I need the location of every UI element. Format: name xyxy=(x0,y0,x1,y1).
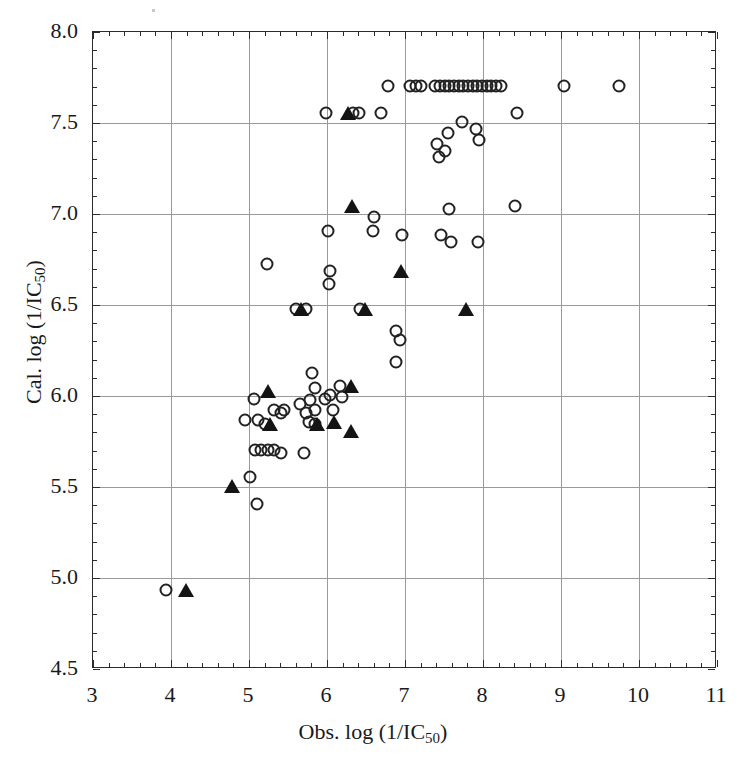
x-axis-tick-minor xyxy=(280,663,281,667)
x-axis-tick-minor xyxy=(670,663,671,667)
data-point-triangle xyxy=(343,424,359,438)
y-axis-tick-minor-right xyxy=(711,469,715,470)
x-axis-tick-major-top xyxy=(561,32,562,39)
x-axis-tick-minor-top xyxy=(202,32,203,36)
y-axis-tick-minor xyxy=(93,178,97,179)
data-point-triangle xyxy=(393,264,409,278)
y-axis-tick-minor-right xyxy=(711,542,715,543)
data-point-triangle xyxy=(309,417,325,431)
data-point-circle xyxy=(277,403,290,416)
x-axis-tick-minor-top xyxy=(467,32,468,36)
gridline-vertical xyxy=(249,32,250,667)
x-axis-title-suffix: ) xyxy=(440,719,447,744)
gridline-horizontal xyxy=(93,214,715,215)
data-point-circle xyxy=(443,203,456,216)
x-axis-tick-minor xyxy=(655,663,656,667)
y-axis-tick-label: 7.5 xyxy=(14,111,78,133)
y-axis-tick-minor xyxy=(93,341,97,342)
x-axis-tick-minor xyxy=(421,663,422,667)
gridline-horizontal xyxy=(93,123,715,124)
y-axis-tick-minor-right xyxy=(711,287,715,288)
y-axis-tick-minor xyxy=(93,105,97,106)
y-axis-tick-major xyxy=(93,487,100,488)
x-axis-tick-label: 4 xyxy=(165,684,176,706)
x-axis-tick-label: 9 xyxy=(555,684,566,706)
x-axis-tick-major-top xyxy=(405,32,406,39)
data-point-circle xyxy=(243,470,256,483)
x-axis-tick-minor-top xyxy=(109,32,110,36)
x-axis-tick-minor xyxy=(467,663,468,667)
data-point-triangle xyxy=(178,583,194,597)
x-axis-tick-major-top xyxy=(249,32,250,39)
x-axis-tick-minor xyxy=(436,663,437,667)
gridline-horizontal xyxy=(93,396,715,397)
x-axis-tick-label: 5 xyxy=(243,684,254,706)
data-point-triangle xyxy=(224,479,240,493)
data-point-circle xyxy=(305,367,318,380)
y-axis-tick-minor xyxy=(93,523,97,524)
data-point-triangle xyxy=(458,302,474,316)
y-axis-tick-minor-right xyxy=(711,633,715,634)
data-point-circle xyxy=(396,228,409,241)
page-speck xyxy=(152,9,155,12)
y-axis-tick-minor xyxy=(93,614,97,615)
data-point-circle xyxy=(323,265,336,278)
y-axis-tick-minor xyxy=(93,633,97,634)
data-point-circle xyxy=(238,414,251,427)
x-axis-tick-label: 3 xyxy=(87,684,98,706)
x-axis-tick-minor-top xyxy=(343,32,344,36)
x-axis-title: Obs. log (1/IC50) xyxy=(0,719,746,747)
data-point-circle xyxy=(323,277,336,290)
x-axis-tick-minor-top xyxy=(452,32,453,36)
y-axis-tick-minor xyxy=(93,68,97,69)
data-point-circle xyxy=(438,145,451,158)
data-point-circle xyxy=(382,79,395,92)
y-axis-tick-minor-right xyxy=(711,196,715,197)
x-axis-tick-minor xyxy=(265,663,266,667)
y-axis-tick-minor-right xyxy=(711,105,715,106)
x-axis-tick-major xyxy=(639,660,640,667)
data-point-circle xyxy=(298,447,311,460)
x-axis-title-subscript: 50 xyxy=(425,730,440,746)
data-point-circle xyxy=(612,79,625,92)
x-axis-tick-minor-top xyxy=(686,32,687,36)
x-axis-tick-minor xyxy=(608,663,609,667)
data-point-triangle xyxy=(340,106,356,120)
x-axis-tick-minor xyxy=(389,663,390,667)
x-axis-tick-minor-top xyxy=(514,32,515,36)
x-axis-tick-major xyxy=(717,660,718,667)
x-axis-tick-label: 7 xyxy=(399,684,410,706)
y-axis-tick-minor-right xyxy=(711,523,715,524)
y-axis-tick-minor xyxy=(93,651,97,652)
plot-area xyxy=(92,31,716,668)
x-axis-tick-minor-top xyxy=(124,32,125,36)
data-point-circle xyxy=(366,225,379,238)
x-axis-tick-minor-top xyxy=(311,32,312,36)
y-axis-tick-minor-right xyxy=(711,323,715,324)
y-axis-tick-minor xyxy=(93,505,97,506)
data-point-circle xyxy=(394,334,407,347)
x-axis-tick-minor-top xyxy=(187,32,188,36)
x-axis-tick-major-top xyxy=(639,32,640,39)
x-axis-tick-minor xyxy=(592,663,593,667)
x-axis-tick-minor xyxy=(233,663,234,667)
x-axis-tick-major xyxy=(327,660,328,667)
y-axis-tick-minor xyxy=(93,360,97,361)
data-point-circle xyxy=(260,257,273,270)
y-axis-tick-minor-right xyxy=(711,159,715,160)
y-axis-tick-label: 5.5 xyxy=(14,475,78,497)
data-point-circle xyxy=(321,225,334,238)
x-axis-tick-minor-top xyxy=(592,32,593,36)
data-point-circle xyxy=(309,403,322,416)
x-axis-tick-minor-top xyxy=(265,32,266,36)
gridline-vertical xyxy=(327,32,328,667)
y-axis-tick-minor-right xyxy=(711,432,715,433)
data-point-triangle xyxy=(343,379,359,393)
x-axis-tick-major xyxy=(249,660,250,667)
y-axis-tick-major xyxy=(93,305,100,306)
x-axis-tick-minor-top xyxy=(655,32,656,36)
y-axis-tick-major-right xyxy=(708,669,715,670)
gridline-horizontal xyxy=(93,578,715,579)
data-point-circle xyxy=(248,392,261,405)
x-axis-tick-minor-top xyxy=(701,32,702,36)
